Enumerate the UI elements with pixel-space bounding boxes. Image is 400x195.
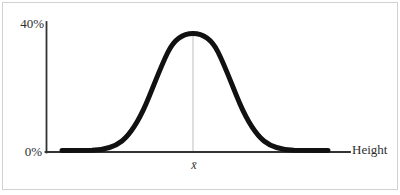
x-axis-title: Height	[352, 143, 387, 156]
y-axis-tick-label-bottom: 0%	[25, 145, 42, 158]
normal-curve	[62, 34, 328, 151]
normal-distribution-chart: 40% 0% Height x̄	[0, 0, 400, 195]
y-axis-tick-label-top: 40%	[20, 17, 44, 30]
mean-tick-label: x̄	[183, 159, 205, 171]
